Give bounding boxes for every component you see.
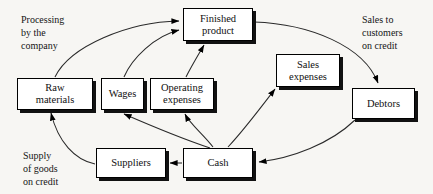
annotation-supply-of-goods-on-credit: Supply of goods on credit	[23, 150, 58, 188]
node-wages-label: Wages	[105, 88, 141, 100]
edge-cash-to-wages	[124, 114, 210, 148]
node-cash-line1: Cash	[206, 157, 231, 169]
node-suppliers-label: Suppliers	[107, 157, 155, 169]
node-sales-expenses[interactable]: Salesexpenses	[276, 54, 340, 87]
node-finished-product[interactable]: Finishedproduct	[183, 8, 253, 41]
diagram-canvas: Finishedproduct Rawmaterials Wages Opera…	[0, 0, 433, 194]
edge-cash-to-sales-expenses	[228, 89, 275, 147]
edge-cash-to-operating-expenses	[185, 114, 213, 147]
annotation-sales-to-customers-on-credit: Sales to customers on credit	[362, 14, 403, 52]
node-operating-expenses-line2: expenses	[159, 94, 205, 106]
edge-raw-materials-to-finished-product	[55, 21, 179, 77]
node-cash-label: Cash	[204, 157, 233, 169]
node-finished-product-line1: Finished	[198, 13, 238, 25]
node-operating-expenses-label: Operatingexpenses	[157, 82, 207, 106]
node-suppliers[interactable]: Suppliers	[96, 148, 166, 178]
node-sales-expenses-line2: expenses	[287, 71, 329, 83]
edge-debtors-to-cash	[259, 120, 355, 162]
node-raw-materials-line2: materials	[34, 94, 76, 106]
edge-operating-expenses-to-finished-product	[186, 45, 204, 77]
node-debtors-line1: Debtors	[365, 98, 402, 110]
node-sales-expenses-line1: Sales	[287, 59, 329, 71]
node-finished-product-label: Finishedproduct	[196, 13, 240, 37]
node-debtors-label: Debtors	[363, 98, 404, 110]
node-suppliers-line1: Suppliers	[109, 157, 153, 169]
node-cash[interactable]: Cash	[183, 148, 253, 178]
node-sales-expenses-label: Salesexpenses	[285, 59, 331, 83]
annotation-processing-by-the-company: Processing by the company	[21, 14, 64, 52]
node-raw-materials[interactable]: Rawmaterials	[17, 78, 93, 110]
node-operating-expenses-line1: Operating	[159, 82, 205, 94]
node-wages[interactable]: Wages	[101, 78, 144, 110]
edge-wages-to-finished-product	[124, 30, 179, 77]
node-raw-materials-line1: Raw	[34, 82, 76, 94]
node-finished-product-line2: product	[198, 25, 238, 37]
node-raw-materials-label: Rawmaterials	[32, 82, 78, 106]
node-debtors[interactable]: Debtors	[352, 88, 415, 119]
node-wages-line1: Wages	[107, 88, 139, 100]
node-operating-expenses[interactable]: Operatingexpenses	[150, 78, 214, 110]
